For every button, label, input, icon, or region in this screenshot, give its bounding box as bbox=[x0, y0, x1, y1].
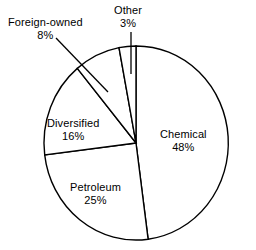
pie-label-foreign-owned-name: Foreign-owned bbox=[8, 16, 83, 29]
pie-label-other: Other 3% bbox=[114, 4, 142, 30]
pie-label-foreign-owned-value: 8% bbox=[8, 29, 83, 42]
pie-label-other-value: 3% bbox=[114, 17, 142, 30]
pie-label-foreign-owned: Foreign-owned 8% bbox=[8, 16, 83, 42]
pie-label-diversified: Diversified 16% bbox=[47, 117, 99, 143]
pie-label-chemical-value: 48% bbox=[160, 141, 207, 154]
pie-label-diversified-name: Diversified bbox=[47, 117, 99, 130]
pie-label-other-name: Other bbox=[114, 4, 142, 17]
pie-label-chemical: Chemical 48% bbox=[160, 128, 207, 154]
pie-chart: Chemical 48% Petroleum 25% Diversified 1… bbox=[0, 0, 256, 250]
pie-label-petroleum: Petroleum 25% bbox=[70, 181, 121, 207]
pie-label-petroleum-name: Petroleum bbox=[70, 181, 121, 194]
pie-label-chemical-name: Chemical bbox=[160, 128, 207, 141]
pie-label-petroleum-value: 25% bbox=[70, 194, 121, 207]
pie-label-diversified-value: 16% bbox=[47, 130, 99, 143]
